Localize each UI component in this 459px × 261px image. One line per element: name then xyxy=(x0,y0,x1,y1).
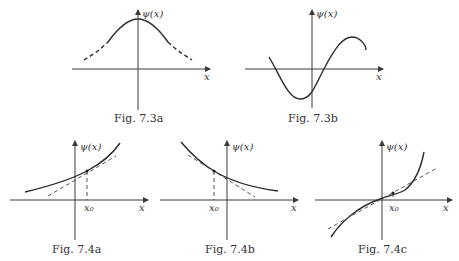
figure-canvas: ψ(x) x Fig. 7.3a ψ(x) x Fig. 7.3b ψ(x) x… xyxy=(0,0,459,261)
x-axis-label: x xyxy=(291,202,297,213)
tangent-point xyxy=(86,170,89,173)
figure-7-3a: ψ(x) x Fig. 7.3a xyxy=(72,8,210,125)
figure-caption: Fig. 7.4b xyxy=(205,243,255,256)
tangent-line xyxy=(188,155,255,197)
x-axis-label: x xyxy=(376,71,382,82)
figure-7-4b: ψ(x) x₀ x Fig. 7.4b xyxy=(160,141,298,256)
increasing-curve xyxy=(25,143,120,192)
figure-caption: Fig. 7.3b xyxy=(288,112,338,125)
figure-7-4a: ψ(x) x₀ x Fig. 7.4a xyxy=(10,141,148,256)
figure-caption: Fig. 7.3a xyxy=(114,112,164,125)
figure-caption: Fig. 7.4c xyxy=(358,243,407,256)
y-axis-label: ψ(x) xyxy=(386,141,407,152)
x-axis-label: x xyxy=(204,71,210,82)
bell-curve-right-tail xyxy=(168,42,192,60)
x0-label: x₀ xyxy=(389,202,399,213)
bell-curve-left-tail xyxy=(84,42,108,60)
tangent-point xyxy=(213,170,216,173)
oscillating-curve xyxy=(269,37,366,99)
y-axis-label: ψ(x) xyxy=(232,141,253,152)
decreasing-curve xyxy=(181,142,278,191)
x0-label: x₀ xyxy=(84,202,94,213)
inflection-curve xyxy=(331,152,424,237)
tangent-line xyxy=(48,156,116,196)
y-axis-label: ψ(x) xyxy=(142,8,163,19)
figure-7-3b: ψ(x) x Fig. 7.3b xyxy=(245,8,383,125)
x-axis-label: x xyxy=(443,202,449,213)
y-axis-label: ψ(x) xyxy=(80,141,101,152)
y-axis-label: ψ(x) xyxy=(316,8,337,19)
figure-7-4c: ψ(x) x₀ x Fig. 7.4c xyxy=(315,141,452,256)
tangent-point xyxy=(392,192,395,195)
x0-label: x₀ xyxy=(209,202,219,213)
x-axis-label: x xyxy=(139,202,145,213)
figure-caption: Fig. 7.4a xyxy=(52,243,102,256)
